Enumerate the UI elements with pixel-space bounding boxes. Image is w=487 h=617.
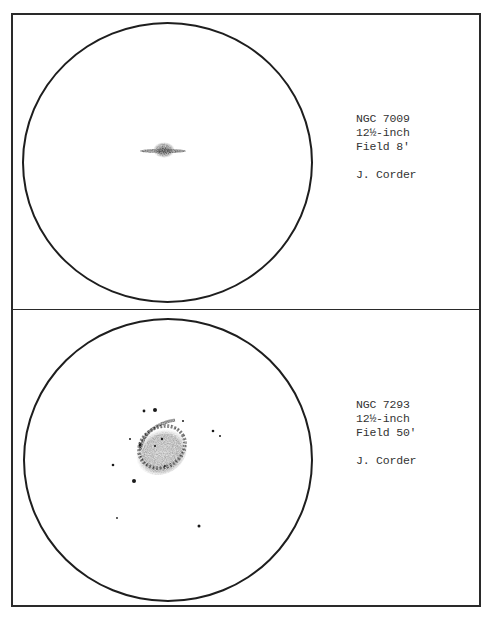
sketch-sheet: NGC 7009 12½-inch Field 8' J. Corder NGC… bbox=[0, 0, 487, 617]
eyepiece-field-circle-top bbox=[22, 22, 313, 303]
field-of-view: Field 50' bbox=[356, 426, 416, 440]
object-name: NGC 7009 bbox=[356, 112, 416, 126]
caption-ngc-7293: NGC 7293 12½-inch Field 50' J. Corder bbox=[356, 398, 416, 468]
object-name: NGC 7293 bbox=[356, 398, 416, 412]
telescope-aperture: 12½-inch bbox=[356, 126, 416, 140]
observer-name: J. Corder bbox=[356, 454, 416, 468]
eyepiece-field-circle-bottom bbox=[23, 318, 313, 602]
caption-ngc-7009: NGC 7009 12½-inch Field 8' J. Corder bbox=[356, 112, 416, 182]
field-of-view: Field 8' bbox=[356, 140, 416, 154]
telescope-aperture: 12½-inch bbox=[356, 412, 416, 426]
observer-name: J. Corder bbox=[356, 168, 416, 182]
